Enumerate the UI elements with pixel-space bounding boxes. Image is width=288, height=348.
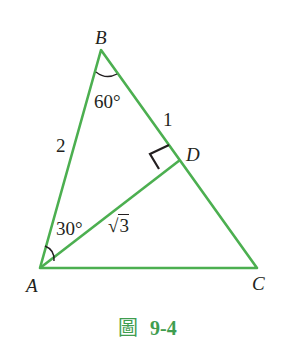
right-angle-marker: [150, 145, 169, 169]
angle-arc-b: [96, 72, 117, 77]
angle-label-a: 30°: [56, 219, 83, 238]
vertex-label-b: B: [95, 28, 107, 47]
triangle-diagram: [0, 0, 288, 348]
vertex-label-d: D: [186, 145, 200, 164]
angle-label-b: 60°: [94, 92, 121, 111]
vertex-label-c: C: [252, 274, 265, 293]
radical-sign: √: [108, 215, 118, 236]
caption-number: 9-4: [150, 317, 177, 339]
vertex-label-a: A: [26, 276, 38, 295]
caption-prefix: 圖: [118, 317, 138, 339]
side-label-ad: √3: [108, 216, 129, 235]
radicand: 3: [118, 214, 129, 236]
figure-caption: 圖9-4: [118, 312, 177, 341]
segment-ad: [40, 160, 180, 268]
side-label-ab: 2: [56, 136, 66, 155]
side-label-bd: 1: [163, 110, 173, 129]
